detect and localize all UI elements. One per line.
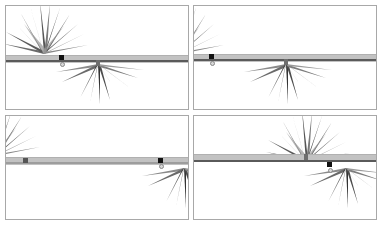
spiky-burst-lower — [194, 116, 377, 220]
frame-bottom-left — [5, 115, 189, 220]
handle-dot — [60, 62, 65, 67]
slider-handle[interactable] — [59, 55, 64, 60]
slider-handle[interactable] — [158, 158, 163, 163]
spiky-burst-lower — [6, 6, 189, 110]
spiky-burst-lower — [194, 6, 377, 110]
burst-stem — [96, 60, 100, 66]
handle-dot — [210, 61, 215, 66]
burst-stem — [284, 59, 288, 65]
slider-handle[interactable] — [327, 162, 332, 167]
frame-top-right — [193, 5, 377, 110]
handle-dot — [328, 168, 333, 173]
handle-dot — [159, 164, 164, 169]
frame-top-left — [5, 5, 189, 110]
frame-bottom-right — [193, 115, 377, 220]
slider-handle[interactable] — [209, 54, 214, 59]
